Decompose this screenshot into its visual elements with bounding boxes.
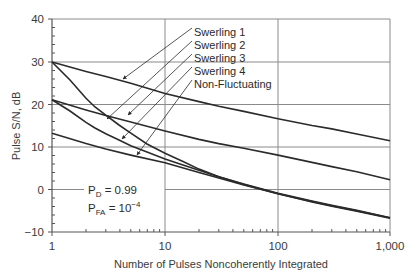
y-tick-10: 10	[31, 141, 44, 153]
pfa-annotation: PFA = 10−4	[88, 200, 141, 217]
y-tick-labels: 40 30 20 10 0 −10	[24, 13, 44, 238]
legend: Swerling 1 Swerling 2 Swerling 3 Swerlin…	[194, 26, 272, 90]
y-tick-20: 20	[31, 99, 44, 111]
legend-leaders	[107, 28, 192, 155]
legend-swerling-2: Swerling 2	[194, 39, 245, 51]
x-tick-10: 10	[159, 240, 172, 252]
x-tick-1: 1	[49, 240, 55, 252]
x-axis-title: Number of Pulses Noncoherently Integrate…	[114, 258, 328, 270]
y-tick-40: 40	[31, 13, 44, 25]
y-axis-title: Pulse S/N, dB	[10, 92, 22, 160]
y-tick-30: 30	[31, 56, 44, 68]
curve-non-fluctuating	[52, 133, 390, 218]
legend-swerling-4: Swerling 4	[194, 65, 245, 77]
chart: 40 30 20 10 0 −10 1 10 100 1,000 Number …	[0, 0, 418, 279]
x-tick-1000: 1,000	[376, 240, 405, 252]
y-tick-minus10: −10	[24, 226, 44, 238]
legend-swerling-1: Swerling 1	[194, 26, 245, 38]
x-tick-100: 100	[268, 240, 287, 252]
curve-swerling-4	[52, 100, 390, 218]
legend-non-fluctuating: Non-Fluctuating	[194, 78, 272, 90]
detection-annotation: PD = 0.99 PFA = 10−4	[88, 184, 141, 217]
y-tick-0: 0	[38, 184, 44, 196]
curve-swerling-3	[52, 100, 390, 180]
legend-swerling-3: Swerling 3	[194, 52, 245, 64]
pd-annotation: PD = 0.99	[88, 184, 137, 199]
x-tick-labels: 1 10 100 1,000	[49, 240, 405, 252]
